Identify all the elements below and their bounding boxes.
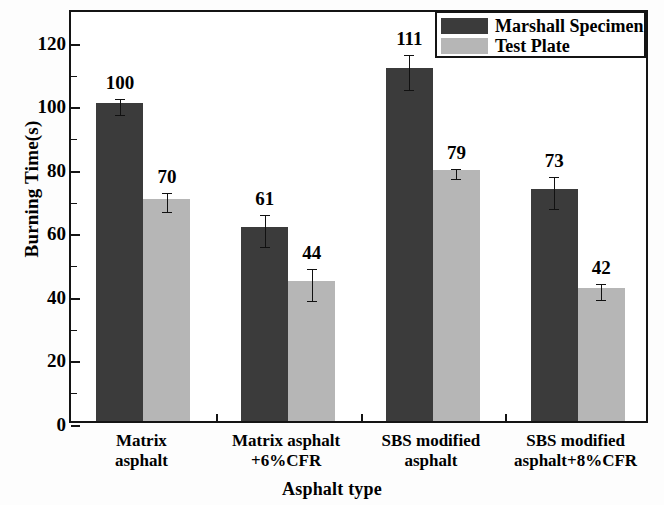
legend-item-test-plate: Test Plate <box>441 36 644 56</box>
y-axis-minor-tick-mark <box>71 330 77 331</box>
error-bar-line <box>167 193 168 212</box>
bar-value-label: 42 <box>592 257 611 279</box>
x-axis-tick-mark <box>505 414 507 421</box>
error-bar-cap <box>404 55 414 56</box>
error-bar-line <box>120 99 121 115</box>
legend-item-marshall-specimen: Marshall Specimen <box>441 16 644 36</box>
error-bar-line <box>456 169 457 179</box>
error-bar-cap <box>162 193 172 194</box>
bar-value-label: 70 <box>157 166 176 188</box>
y-axis-tick-mark <box>71 44 80 46</box>
y-axis-tick-mark <box>71 171 80 173</box>
error-bar-cap <box>404 90 414 91</box>
y-axis-minor-tick-mark <box>71 76 77 77</box>
y-axis-minor-tick-mark <box>71 393 77 394</box>
chart-legend: Marshall Specimen Test Plate <box>435 11 646 58</box>
error-bar-line <box>312 269 313 301</box>
error-bar-line <box>409 55 410 90</box>
x-axis-tick-mark <box>361 414 363 421</box>
y-axis-tick-label: 60 <box>47 223 66 245</box>
bar-test-plate <box>433 170 480 421</box>
burning-time-bar-chart: Burning Time(s) Asphalt type 02040608010… <box>0 0 664 505</box>
x-axis-tick-mark <box>216 414 218 421</box>
error-bar-line <box>265 215 266 247</box>
y-axis-tick-mark <box>71 107 80 109</box>
y-axis-tick-label: 100 <box>38 96 67 118</box>
y-axis-tick-mark <box>71 425 80 427</box>
error-bar-cap <box>260 247 270 248</box>
error-bar-line <box>554 177 555 209</box>
error-bar-cap <box>451 179 461 180</box>
bar-test-plate <box>288 281 335 421</box>
error-bar-cap <box>115 99 125 100</box>
y-axis-tick-label: 20 <box>47 350 66 372</box>
plot-area: 020406080100120100706144111797342 <box>69 10 648 423</box>
y-axis-minor-tick-mark <box>71 139 77 140</box>
bar-value-label: 73 <box>545 150 564 172</box>
error-bar-cap <box>596 300 606 301</box>
error-bar-cap <box>115 115 125 116</box>
error-bar-cap <box>260 215 270 216</box>
y-axis-tick-mark <box>71 361 80 363</box>
bar-marshall-specimen <box>386 68 433 421</box>
legend-label: Marshall Specimen <box>495 17 644 35</box>
error-bar-cap <box>549 177 559 178</box>
y-axis-tick-mark <box>71 298 80 300</box>
error-bar-cap <box>596 284 606 285</box>
bar-test-plate <box>578 288 625 421</box>
error-bar-cap <box>451 169 461 170</box>
y-axis-tick-label: 40 <box>47 286 66 308</box>
legend-label: Test Plate <box>495 37 570 55</box>
y-axis-minor-tick-mark <box>71 203 77 204</box>
error-bar-cap <box>307 301 317 302</box>
bar-test-plate <box>143 199 190 421</box>
error-bar-cap <box>162 212 172 213</box>
y-axis-minor-tick-mark <box>71 266 77 267</box>
y-axis-tick-label: 120 <box>38 32 67 54</box>
bar-marshall-specimen <box>531 189 578 421</box>
bar-value-label: 44 <box>302 242 321 264</box>
x-axis-title: Asphalt type <box>0 479 664 500</box>
y-axis-tick-mark <box>71 234 80 236</box>
bar-marshall-specimen <box>241 227 288 421</box>
bar-value-label: 100 <box>106 72 135 94</box>
legend-swatch-icon-dark <box>441 18 488 34</box>
bar-value-label: 79 <box>447 142 466 164</box>
error-bar-cap <box>549 209 559 210</box>
legend-swatch-icon-light <box>441 38 488 54</box>
bar-value-label: 111 <box>396 28 422 50</box>
error-bar-line <box>601 284 602 300</box>
bar-marshall-specimen <box>96 103 143 421</box>
bar-value-label: 61 <box>255 188 274 210</box>
error-bar-cap <box>307 269 317 270</box>
x-axis-category-label: SBS modified asphalt+8%CFR <box>486 431 664 471</box>
y-axis-tick-label: 80 <box>47 159 66 181</box>
